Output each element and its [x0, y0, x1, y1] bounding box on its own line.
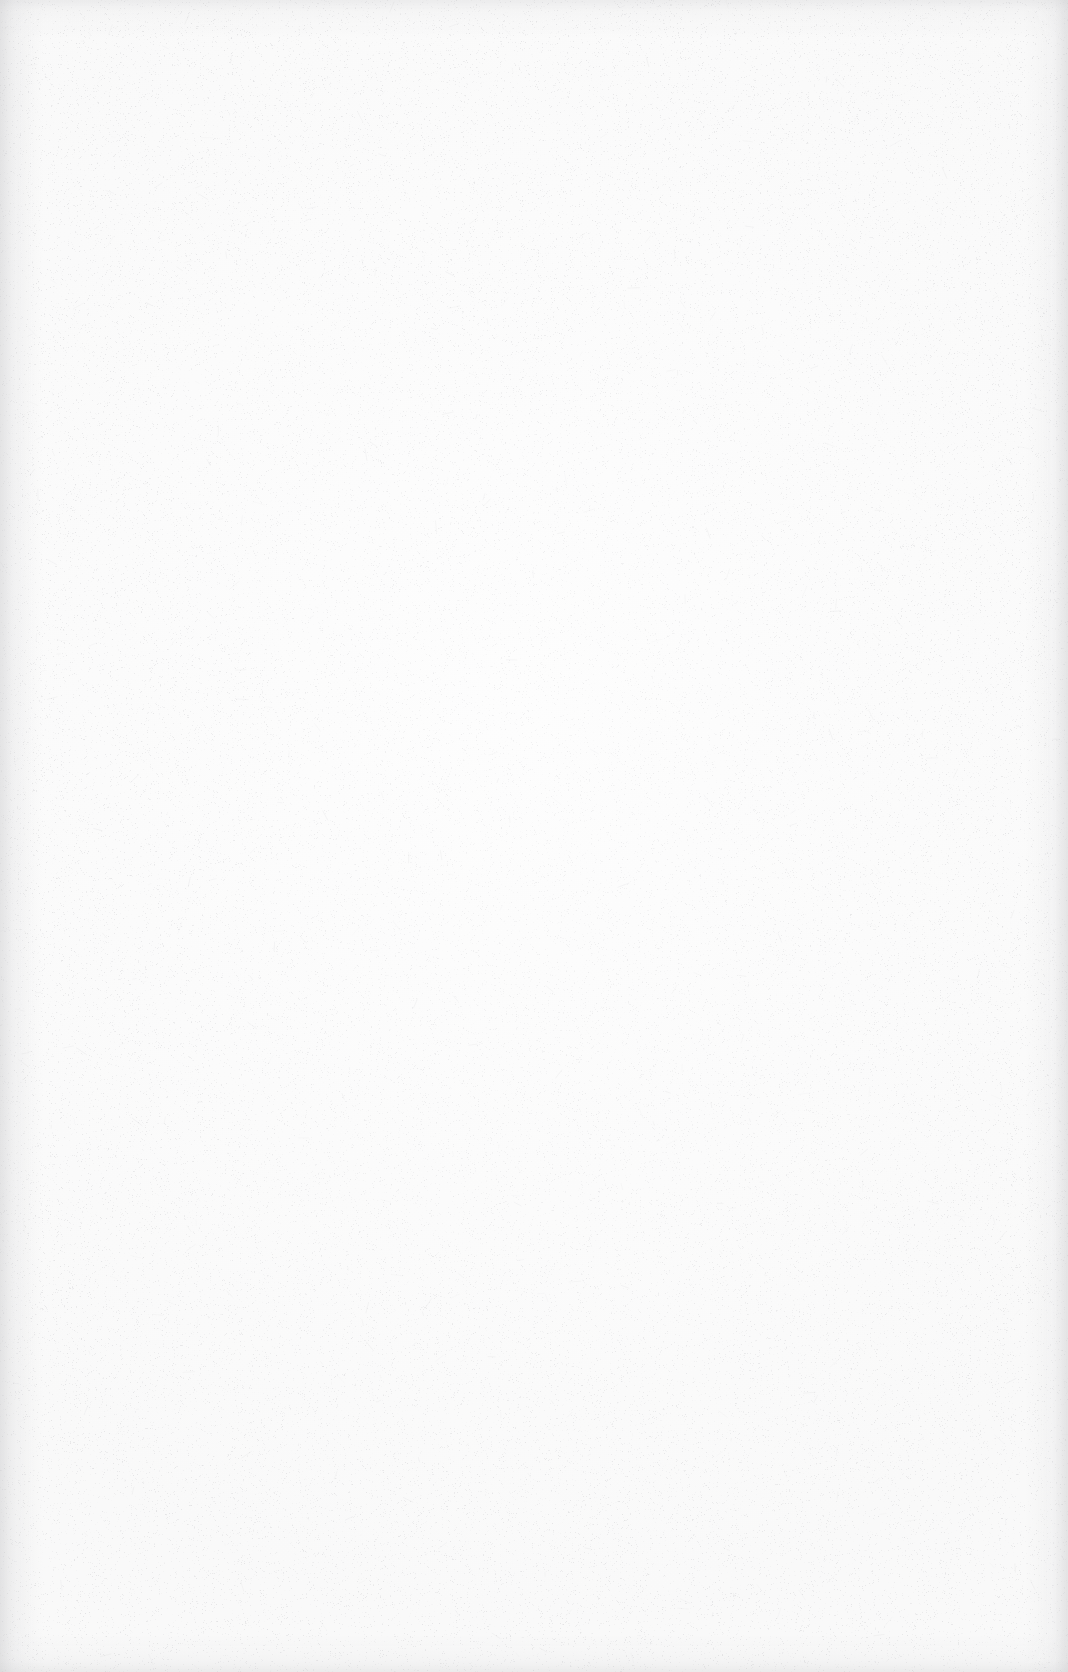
paper-grain-texture — [0, 0, 1068, 1672]
scanned-page — [0, 0, 1068, 1672]
